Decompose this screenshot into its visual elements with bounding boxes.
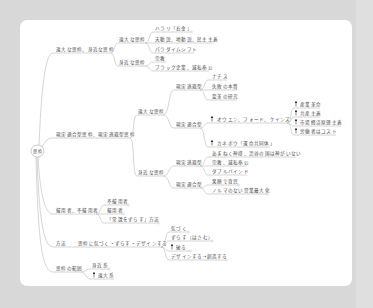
leaf-label: 共産主義 [300, 110, 321, 117]
node-label: 現実適合型 [176, 121, 202, 128]
node-label: 現実逃避型 [176, 83, 202, 90]
leaf-label: 擬用者 [107, 207, 123, 214]
leaf-label: 労働者はコスト [300, 128, 337, 135]
leaf-label: 身近系 [92, 262, 108, 269]
branch-label: 擬用者、不擬用者 [56, 207, 98, 214]
branch-label: 方法 [56, 240, 67, 247]
leaf-label: デザインする→創造する [171, 253, 228, 260]
collapse-marker [108, 268, 110, 270]
leaf-label: ハラリ「お金」 [155, 25, 192, 32]
collapse-marker [122, 213, 124, 215]
pin-head [211, 141, 213, 143]
mind-map-canvas: 思枠 遠大な思枠、身近な思枠 遠大な思枠 身近な思枠 ハラリ「お金」 天動説、地… [0, 0, 373, 308]
leaf-label: ダブルバインド [212, 168, 249, 175]
pin-head [295, 120, 297, 122]
leaf-label: 気づく [171, 225, 187, 232]
pin-head [295, 129, 297, 131]
node-label: 現実逃避型 [176, 159, 202, 166]
pin-head [295, 111, 297, 113]
collapse-marker [237, 184, 239, 186]
leaf-label: パラダイムシフト [155, 46, 197, 53]
collapse-marker [189, 250, 191, 252]
collapse-marker [211, 240, 213, 242]
branch-label: 現実適合型思枠、現実逃避型思枠 [56, 131, 135, 138]
leaf-label: 遠大系 [98, 272, 114, 279]
leaf-label: 天動説、地動説、民主主義 [155, 36, 218, 43]
pin-head [295, 102, 297, 104]
branch-label: 思枠の範囲 [56, 265, 82, 272]
root-label: 思枠 [33, 148, 42, 155]
leaf-label: あまねく神様、渋谷の国は神がいない [212, 150, 301, 157]
branch-label: 遠大な思枠、身近な思枠 [56, 46, 114, 53]
leaf-label: 変革の研究 [212, 93, 238, 100]
collapse-marker [187, 231, 189, 233]
leaf-label: 市場経済原理主義 [300, 119, 342, 126]
pin-head [93, 273, 95, 275]
leaf-label: 不擬用者 [107, 198, 128, 205]
leaf-label: 破る [176, 244, 187, 251]
node-label: 身近な思枠 [138, 169, 164, 176]
leaf-label: 「常識をずらす」方法 [107, 216, 160, 223]
leaf-label: ノルマのない営業最大化 [212, 187, 270, 194]
leaf-label: ずらす（はさむ） [171, 234, 213, 241]
node-label: オウエン、フォード、ケインズ [217, 116, 291, 123]
leaf-label: 宗教 [155, 55, 166, 62]
collapse-marker [157, 222, 159, 224]
leaf-label: 笑顔で育児 [212, 178, 238, 185]
leaf-label: ブラック企業、滅私奉公 [155, 64, 213, 71]
node-label: 思枠に気づく・ずらす・デザインする [78, 240, 167, 247]
leaf-label: 産業革命 [300, 101, 321, 108]
collapse-marker [225, 259, 227, 261]
pin-head [211, 117, 213, 119]
node-label: 身近な思枠 [119, 59, 145, 66]
node-label: 遠大な思枠 [119, 36, 145, 43]
collapse-marker [266, 193, 268, 195]
node-label: 現実適合型 [176, 181, 202, 188]
collapse-marker [127, 204, 129, 206]
node-label: 遠大な思枠 [138, 108, 164, 115]
leaf-label: カネボウ「運命共同体」 [217, 140, 275, 147]
collapse-marker [190, 31, 192, 33]
pin-head [171, 245, 173, 247]
leaf-label: 失敗の本質 [212, 83, 238, 90]
leaf-label: 宗教、滅私奉公 [212, 159, 249, 166]
right-margin-band [356, 0, 373, 308]
